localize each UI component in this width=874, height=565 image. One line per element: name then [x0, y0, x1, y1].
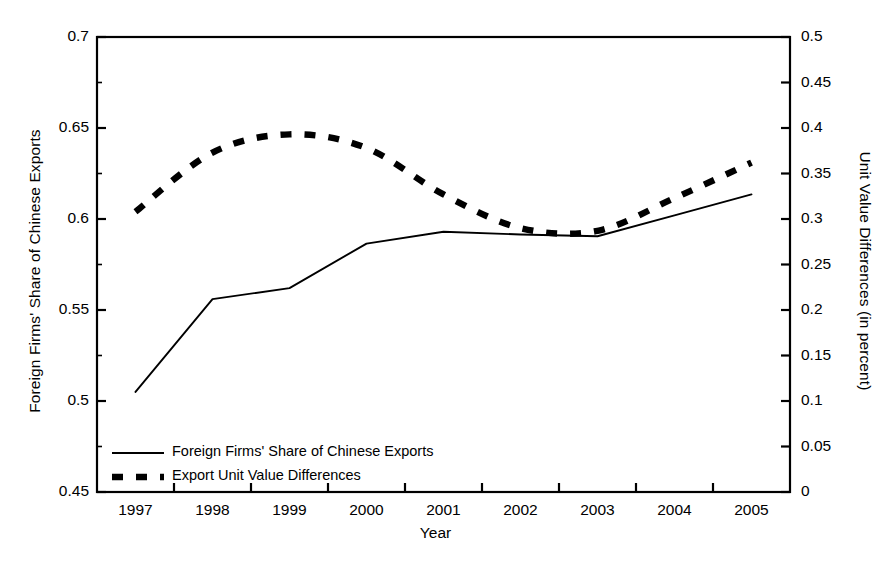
left-axis-ticks	[97, 37, 106, 492]
x-category-label: 2003	[558, 501, 638, 519]
right-tick-label: 0.5	[801, 27, 861, 45]
x-category-label: 2000	[327, 501, 407, 519]
right-tick-label: 0.3	[801, 209, 861, 227]
left-tick-label: 0.5	[1, 391, 89, 409]
left-tick-label: 0.7	[1, 27, 89, 45]
left-tick-label: 0.55	[1, 300, 89, 318]
right-tick-label: 0	[801, 482, 861, 500]
axis-frame	[97, 37, 790, 492]
right-tick-label: 0.1	[801, 391, 861, 409]
right-tick-label: 0.25	[801, 255, 861, 273]
left-tick-label: 0.6	[1, 209, 89, 227]
right-tick-label: 0.35	[801, 164, 861, 182]
left-tick-label: 0.65	[1, 118, 89, 136]
x-category-label: 2001	[404, 501, 484, 519]
x-axis-ticks	[174, 483, 713, 492]
x-category-label: 1999	[250, 501, 330, 519]
right-tick-label: 0.45	[801, 73, 861, 91]
legend-item-label: Export Unit Value Differences	[172, 467, 361, 483]
x-category-label: 1998	[173, 501, 253, 519]
legend-symbols	[112, 453, 164, 477]
x-category-label: 2004	[635, 501, 715, 519]
left-axis-title: Foreign Firms' Share of Chinese Exports	[26, 106, 44, 436]
x-category-label: 2005	[712, 501, 792, 519]
right-tick-label: 0.15	[801, 346, 861, 364]
series-line-foreign-firms-share	[136, 194, 752, 391]
right-axis-ticks	[781, 37, 790, 492]
right-tick-label: 0.2	[801, 300, 861, 318]
x-category-label: 1997	[96, 501, 176, 519]
x-category-label: 2002	[481, 501, 561, 519]
legend-item-label: Foreign Firms' Share of Chinese Exports	[172, 443, 433, 459]
x-axis-title: Year	[0, 524, 871, 542]
left-tick-label: 0.45	[1, 482, 89, 500]
right-tick-label: 0.4	[801, 118, 861, 136]
right-tick-label: 0.05	[801, 437, 861, 455]
